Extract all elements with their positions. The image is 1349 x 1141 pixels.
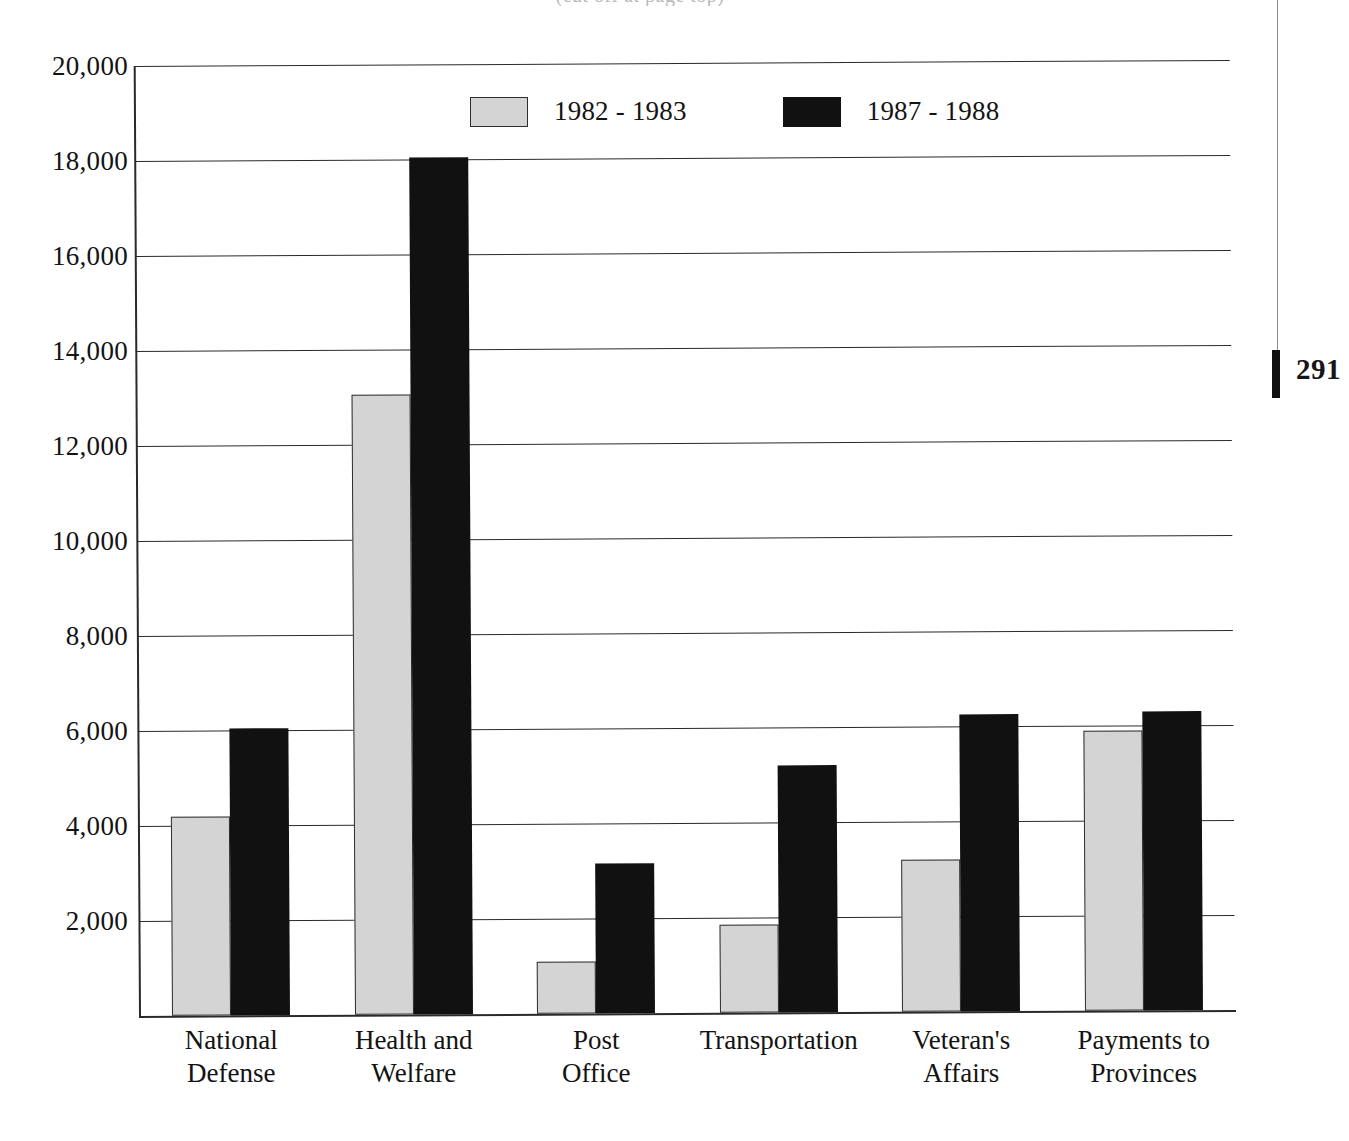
plot-area: [135, 60, 1235, 1016]
legend-swatch-icon-1982-1983: [470, 97, 528, 127]
bar-group: [897, 61, 1020, 1012]
bar-group: [1079, 60, 1202, 1011]
bar-chart: 2,0004,0006,0008,00010,00012,00014,00016…: [0, 0, 1280, 1141]
x-tick-label: Post Office: [505, 1024, 688, 1090]
x-tick-label: Veteran's Affairs: [870, 1024, 1053, 1090]
y-tick-label: 2,000: [8, 908, 128, 935]
legend-label-1982-1983: 1982 - 1983: [554, 96, 687, 127]
gridline: [136, 345, 1231, 352]
gridline: [139, 915, 1234, 922]
gridline: [135, 60, 1230, 67]
bar-group: [167, 65, 290, 1016]
legend-swatch-icon-1987-1988: [783, 97, 841, 127]
x-tick-label: Health and Welfare: [323, 1024, 506, 1090]
gridline: [138, 630, 1233, 637]
x-tick-label: National Defense: [140, 1024, 323, 1090]
plot-skew-wrapper: [0, 0, 1280, 1061]
bar-light: [537, 961, 596, 1014]
x-axis-line: [139, 1010, 1236, 1018]
gridline: [137, 440, 1232, 447]
bar-light: [1083, 730, 1144, 1011]
bar-dark: [777, 765, 837, 1012]
bar-light: [351, 395, 413, 1015]
y-tick-label: 14,000: [8, 338, 128, 365]
x-axis-tick-labels: National DefenseHealth and WelfarePost O…: [140, 1024, 1235, 1124]
y-tick-label: 6,000: [8, 718, 128, 745]
bar-dark: [409, 157, 473, 1015]
bar-dark: [960, 714, 1021, 1011]
bar-dark: [230, 728, 291, 1016]
legend-entry-series-1: 1982 - 1983: [470, 96, 687, 127]
y-tick-label: 8,000: [8, 623, 128, 650]
gridline: [137, 535, 1232, 542]
gridline: [135, 155, 1230, 162]
y-tick-label: 10,000: [8, 528, 128, 555]
y-tick-label: 4,000: [8, 813, 128, 840]
bar-dark: [1142, 711, 1203, 1011]
bar-dark: [595, 863, 655, 1013]
chart-legend: 1982 - 1983 1987 - 1988: [470, 96, 999, 127]
y-tick-label: 20,000: [8, 53, 128, 80]
x-tick-label: Transportation: [688, 1024, 871, 1057]
gridline: [138, 725, 1233, 732]
bar-light: [171, 816, 231, 1016]
page-canvas: (cut off at page top) 291 2,0004,0006,00…: [0, 0, 1349, 1141]
bar-group: [714, 62, 837, 1013]
x-tick-label: Payments to Provinces: [1053, 1024, 1236, 1090]
bar-light: [719, 925, 778, 1013]
bar-group: [532, 63, 655, 1014]
y-tick-label: 18,000: [8, 148, 128, 175]
bar-light: [901, 859, 961, 1011]
legend-label-1987-1988: 1987 - 1988: [867, 96, 1000, 127]
bar-group: [349, 64, 472, 1015]
legend-entry-series-2: 1987 - 1988: [783, 96, 1000, 127]
page-number: 291: [1296, 353, 1341, 386]
gridline: [139, 820, 1234, 827]
gridline: [136, 250, 1231, 257]
gridlines: [135, 60, 1230, 66]
y-tick-label: 12,000: [8, 433, 128, 460]
y-axis-tick-labels: 2,0004,0006,0008,00010,00012,00014,00016…: [0, 66, 128, 1017]
y-tick-label: 16,000: [8, 243, 128, 270]
